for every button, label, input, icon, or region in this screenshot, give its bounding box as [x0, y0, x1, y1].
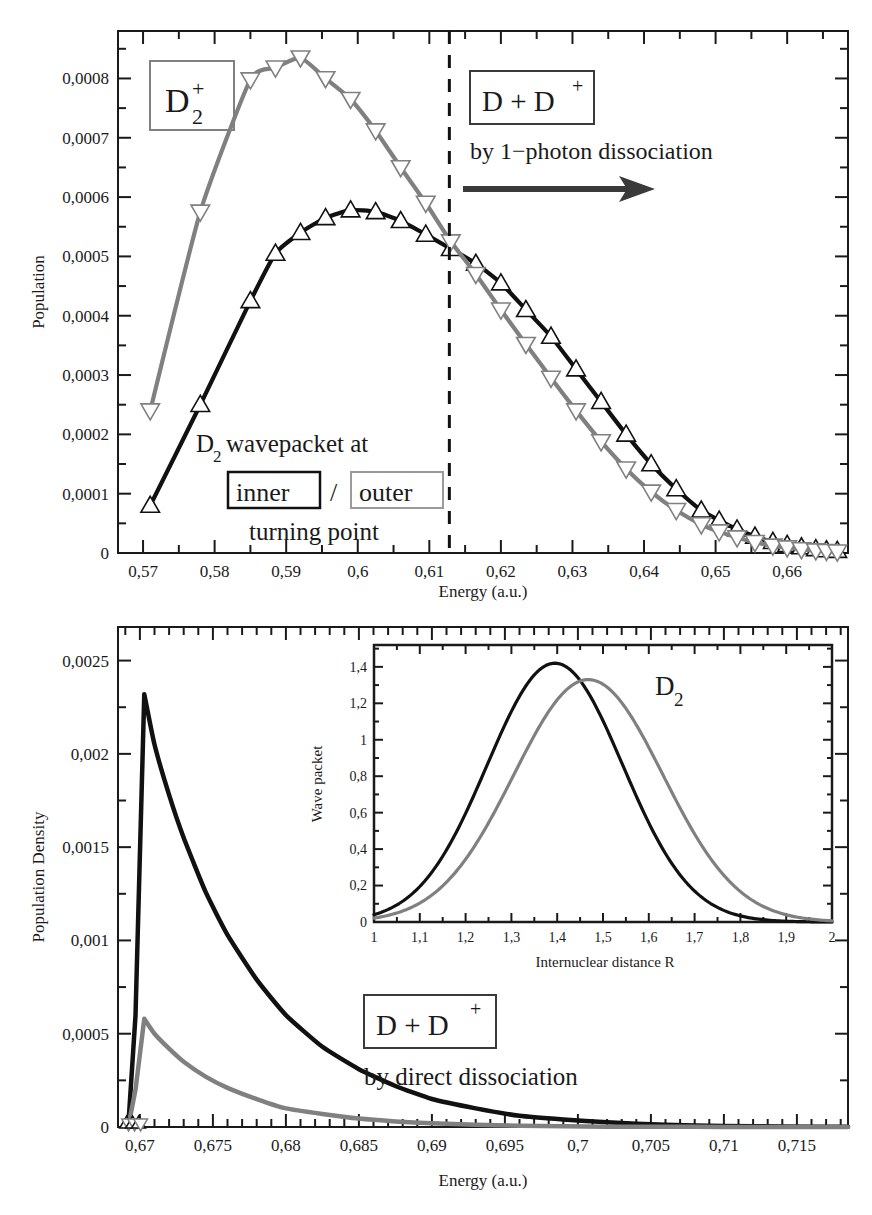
- x-tick-label: 1,7: [686, 930, 704, 945]
- x-tick-label: 0,69: [417, 1136, 447, 1155]
- data-point-marker: [291, 223, 310, 239]
- top-panel-xticklabels: 0,570,580,590,60,610,620,630,640,650,66: [128, 562, 802, 581]
- inset-panel: Wave packet Internuclear distance R 11,1…: [309, 645, 836, 970]
- y-tick-label: 0,001: [71, 931, 109, 950]
- figure-root: Population Energy (a.u.) 0,570,580,590,6…: [0, 0, 872, 1215]
- y-tick-label: 0,0006: [62, 188, 109, 207]
- x-tick-label: 0,695: [486, 1136, 524, 1155]
- bottom-panel-xlabel: Energy (a.u.): [439, 1171, 528, 1190]
- top-panel-xlabel: Energy (a.u.): [439, 582, 528, 601]
- arrow-right-icon: [463, 176, 655, 202]
- x-tick-label: 0,675: [194, 1136, 232, 1155]
- data-point-marker: [241, 292, 260, 308]
- y-tick-label: 0,0002: [62, 425, 109, 444]
- x-tick-label: 0,705: [632, 1136, 670, 1155]
- label-direct-dissociation: by direct dissociation: [364, 1063, 578, 1090]
- y-tick-label: 1: [360, 733, 367, 748]
- y-tick-label: 0,0004: [62, 307, 109, 326]
- x-tick-label: 0,715: [778, 1136, 816, 1155]
- label-dplusd-bottom: D + D +: [364, 995, 496, 1048]
- x-tick-label: 0,59: [271, 562, 301, 581]
- y-tick-label: 1,2: [350, 696, 368, 711]
- data-point-marker: [191, 205, 210, 221]
- label-wavepacket-text: wavepacket at: [226, 430, 368, 457]
- inset-panel-ylabel: Wave packet: [309, 745, 325, 822]
- x-tick-label: 0,64: [629, 562, 659, 581]
- label-turning-point: turning point: [249, 518, 379, 545]
- label-inner-text: inner: [236, 478, 290, 507]
- label-wavepacket: D 2 wavepacket at inner / outer turning …: [196, 430, 443, 545]
- label-d2plus-superscript: +: [192, 76, 204, 101]
- figure-svg: Population Energy (a.u.) 0,570,580,590,6…: [0, 0, 872, 1215]
- x-tick-label: 1,4: [548, 930, 566, 945]
- inset-panel-xticklabels: 11,11,21,31,41,51,61,71,81,92: [371, 930, 836, 945]
- x-tick-label: 0,7: [567, 1136, 589, 1155]
- y-tick-label: 0,0007: [62, 129, 109, 148]
- label-dplusd-text: D + D: [482, 85, 555, 117]
- bottom-panel-ylabel: Population Density: [29, 811, 48, 942]
- y-tick-label: 0,0003: [62, 366, 109, 385]
- y-tick-label: 0,4: [350, 842, 368, 857]
- label-dplusd: D + D +: [470, 71, 594, 124]
- x-tick-label: 1,6: [640, 930, 658, 945]
- data-point-marker: [141, 404, 160, 420]
- data-point-marker: [191, 395, 210, 411]
- y-tick-label: 0,0005: [62, 247, 109, 266]
- x-tick-label: 1,2: [457, 930, 475, 945]
- inset-background: [374, 645, 832, 922]
- x-tick-label: 0,57: [128, 562, 158, 581]
- x-tick-label: 0,68: [271, 1136, 301, 1155]
- y-tick-label: 0,0008: [62, 69, 109, 88]
- y-tick-label: 0,0001: [62, 485, 109, 504]
- x-tick-label: 0,71: [709, 1136, 739, 1155]
- y-tick-label: 0,6: [350, 806, 368, 821]
- x-tick-label: 1,1: [411, 930, 429, 945]
- x-tick-label: 0,685: [340, 1136, 378, 1155]
- y-tick-label: 1,4: [350, 660, 368, 675]
- label-d2plus-text: D: [165, 82, 190, 119]
- y-tick-label: 0,2: [350, 878, 368, 893]
- data-point-marker: [667, 504, 686, 520]
- inset-panel-xlabel: Internuclear distance R: [535, 954, 674, 970]
- x-tick-label: 0,66: [772, 562, 802, 581]
- top-panel-yticklabels: 00,00010,00020,00030,00040,00050,00060,0…: [62, 69, 109, 563]
- label-dplusd-bottom-superscript: +: [470, 998, 481, 1020]
- inset-label-d2-text: D: [655, 671, 675, 701]
- y-tick-label: 0: [101, 1118, 110, 1137]
- label-dplusd-superscript: +: [572, 75, 583, 97]
- x-tick-label: 2: [829, 930, 836, 945]
- label-1photon-dissociation: by 1−photon dissociation: [470, 138, 713, 164]
- top-panel-ylabel: Population: [29, 255, 48, 329]
- y-tick-label: 0,0005: [62, 1025, 109, 1044]
- x-tick-label: 0,61: [414, 562, 444, 581]
- x-tick-label: 0,6: [347, 562, 368, 581]
- x-tick-label: 0,67: [125, 1136, 155, 1155]
- x-tick-label: 1,8: [732, 930, 750, 945]
- y-tick-label: 0,0015: [62, 838, 109, 857]
- x-tick-label: 1,9: [777, 930, 795, 945]
- label-wavepacket-d: D: [196, 430, 214, 457]
- x-tick-label: 1,3: [503, 930, 521, 945]
- y-tick-label: 0,8: [350, 769, 368, 784]
- inset-panel-yticklabels: 00,20,40,60,811,21,4: [350, 660, 368, 930]
- inset-label-d2-subscript: 2: [674, 689, 684, 710]
- x-tick-label: 1,5: [594, 930, 612, 945]
- y-tick-label: 0: [360, 915, 367, 930]
- label-d2plus: D 2 +: [150, 61, 234, 130]
- top-panel: Population Energy (a.u.) 0,570,580,590,6…: [29, 31, 848, 601]
- x-tick-label: 0,62: [486, 562, 516, 581]
- data-point-marker: [141, 496, 160, 512]
- x-tick-label: 1: [371, 930, 378, 945]
- y-tick-label: 0: [101, 544, 110, 563]
- label-slash: /: [330, 478, 338, 507]
- data-point-marker: [241, 73, 260, 89]
- bottom-panel-yticklabels: 00,00050,0010,00150,0020,0025: [62, 652, 109, 1137]
- y-tick-label: 0,0025: [62, 652, 109, 671]
- bottom-panel-xticklabels: 0,670,6750,680,6850,690,6950,70,7050,710…: [125, 1136, 816, 1155]
- x-tick-label: 0,63: [558, 562, 588, 581]
- x-tick-label: 0,65: [701, 562, 731, 581]
- label-dplusd-bottom-text: D + D: [376, 1009, 449, 1041]
- y-tick-label: 0,002: [71, 745, 109, 764]
- x-tick-label: 0,58: [200, 562, 230, 581]
- label-d2plus-subscript: 2: [192, 104, 203, 129]
